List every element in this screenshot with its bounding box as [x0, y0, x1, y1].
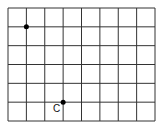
point-0 — [24, 24, 29, 29]
grid-diagram — [0, 0, 165, 130]
point-c — [61, 100, 66, 105]
point-c-label: C — [53, 104, 60, 114]
